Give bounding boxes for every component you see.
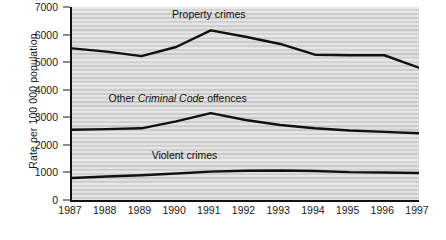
x-tick-label: 1993 <box>267 204 290 216</box>
x-tick-label: 1991 <box>197 204 220 216</box>
y-tick-mark <box>63 62 70 63</box>
y-tick-label: 6000 <box>35 29 58 41</box>
x-axis-ticks: 1987198819891990199119921993199419951996… <box>70 204 417 226</box>
y-tick-label: 3000 <box>35 111 58 123</box>
series-label-2: Violent crimes <box>152 149 218 161</box>
y-tick-mark <box>63 7 70 8</box>
y-tick-mark <box>63 34 70 35</box>
x-tick-label: 1987 <box>58 204 81 216</box>
series-line <box>72 171 419 178</box>
x-tick-label: 1990 <box>162 204 185 216</box>
y-tick-label: 2000 <box>35 139 58 151</box>
y-tick-mark <box>63 89 70 90</box>
y-tick-label: 7000 <box>35 1 58 13</box>
x-tick-label: 1996 <box>371 204 394 216</box>
x-tick-label: 1997 <box>405 204 428 216</box>
y-tick-mark <box>63 144 70 145</box>
x-tick-label: 1992 <box>232 204 255 216</box>
series-line <box>72 30 419 67</box>
x-tick-label: 1995 <box>336 204 359 216</box>
series-label-0: Property crimes <box>172 8 246 20</box>
series-label-1: Other Criminal Code offences <box>108 92 246 104</box>
x-tick-label: 1988 <box>93 204 116 216</box>
plot-area <box>70 7 419 202</box>
chart-figure: Rate per 100 000 population 010002000300… <box>0 0 446 240</box>
y-tick-label: 0 <box>52 194 58 206</box>
y-tick-mark <box>63 200 70 201</box>
y-tick-label: 1000 <box>35 166 58 178</box>
x-tick-label: 1994 <box>301 204 324 216</box>
y-tick-mark <box>63 172 70 173</box>
y-tick-mark <box>63 117 70 118</box>
x-tick-label: 1989 <box>128 204 151 216</box>
series-line <box>72 113 419 133</box>
y-tick-label: 4000 <box>35 84 58 96</box>
y-tick-label: 5000 <box>35 56 58 68</box>
